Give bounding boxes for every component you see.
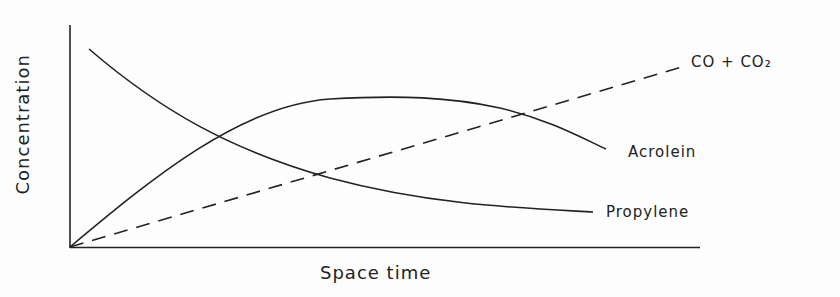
y-axis-label: Concentration [12, 75, 33, 195]
series-label-co-co2: CO + CO₂ [691, 53, 772, 71]
co-co2-dashed-line [70, 67, 682, 247]
series-label-acrolein: Acrolein [628, 143, 696, 161]
chart-canvas [0, 0, 840, 297]
series-label-propylene: Propylene [606, 203, 689, 221]
propylene-curve [89, 49, 593, 212]
acrolein-curve [70, 97, 606, 247]
x-axis-label: Space time [320, 262, 431, 283]
